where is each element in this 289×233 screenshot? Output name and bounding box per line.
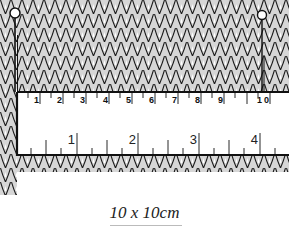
svg-text:2: 2 (57, 95, 62, 105)
svg-text:3: 3 (80, 95, 85, 105)
caption-underline (110, 225, 182, 226)
svg-text:4: 4 (251, 132, 258, 147)
svg-text:7: 7 (172, 95, 177, 105)
ruler: 1 2 3 4 5 6 7 8 9 10 (17, 92, 289, 156)
svg-text:6: 6 (149, 95, 154, 105)
gauge-swatch-diagram: 1 2 3 4 5 6 7 8 9 10 (0, 0, 289, 233)
svg-text:1: 1 (68, 132, 75, 147)
svg-text:3: 3 (190, 132, 197, 147)
svg-text:1: 1 (34, 95, 39, 105)
svg-text:9: 9 (218, 95, 223, 105)
caption: 10 x 10cm (0, 203, 289, 223)
svg-text:5: 5 (126, 95, 131, 105)
svg-text:8: 8 (195, 95, 200, 105)
svg-text:2: 2 (129, 132, 136, 147)
svg-text:10: 10 (257, 95, 271, 105)
svg-text:4: 4 (103, 95, 108, 105)
